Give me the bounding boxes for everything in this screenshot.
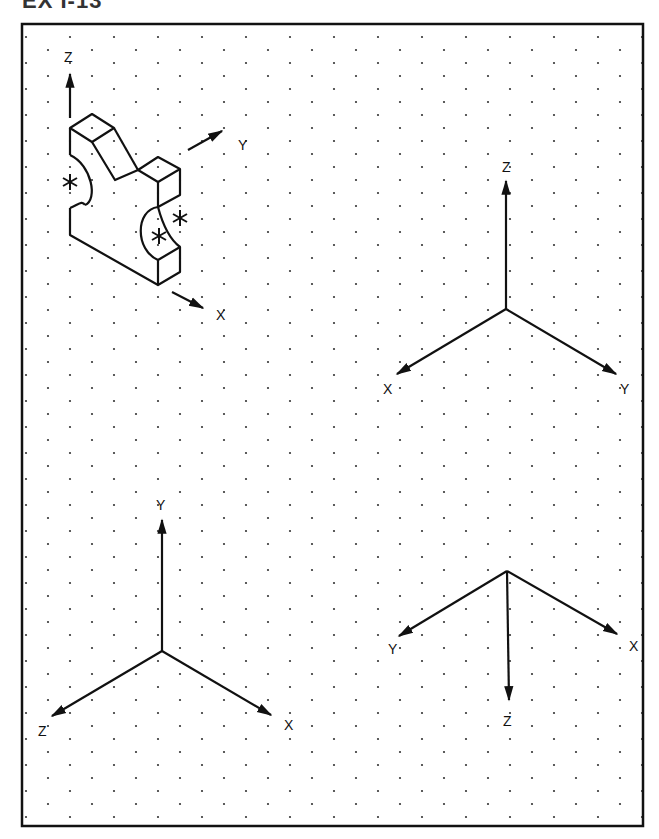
object-label-x: X — [216, 307, 226, 323]
grid-frame — [22, 24, 643, 826]
label-y: Y — [620, 381, 630, 397]
label-x: X — [629, 638, 639, 654]
label-z: Z — [503, 713, 512, 729]
label-z: Z — [38, 723, 47, 739]
label-z: Z — [502, 159, 511, 175]
drawing-canvas: Z Y X Z X Y Y Z X Z Y X — [0, 0, 659, 839]
label-x: X — [383, 381, 393, 397]
label-y: Y — [388, 641, 398, 657]
label-x: X — [284, 717, 294, 733]
label-y: Y — [156, 497, 166, 513]
object-label-z: Z — [64, 49, 73, 65]
object-label-y: Y — [238, 137, 248, 153]
